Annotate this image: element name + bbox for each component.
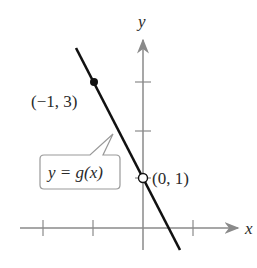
graph: x y (−1, 3) (0, 1) y = g(x) bbox=[0, 0, 257, 268]
point-label-neg1-3: (−1, 3) bbox=[31, 92, 77, 111]
point-open bbox=[139, 174, 148, 183]
x-axis-label: x bbox=[244, 219, 253, 238]
function-line bbox=[76, 48, 180, 250]
y-axis-label: y bbox=[136, 12, 146, 31]
point-label-0-1: (0, 1) bbox=[152, 169, 189, 188]
function-label: y = g(x) bbox=[46, 163, 103, 182]
point-filled bbox=[90, 78, 98, 86]
